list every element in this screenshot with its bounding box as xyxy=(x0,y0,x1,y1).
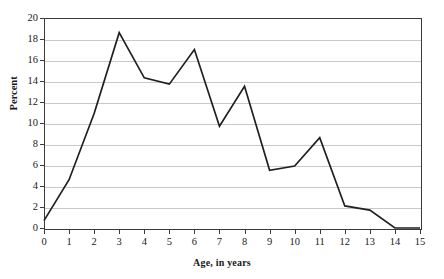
x-tick-mark xyxy=(144,229,145,234)
x-axis-title: Age, in years xyxy=(0,257,444,268)
chart-figure: Percent 02468101214161820 01234567891011… xyxy=(0,0,444,279)
x-tick-mark xyxy=(320,229,321,234)
x-tick-label: 9 xyxy=(257,237,283,248)
y-tick-mark xyxy=(40,123,44,124)
x-tick-mark xyxy=(69,229,70,234)
gridline xyxy=(45,40,421,41)
y-tick-label: 16 xyxy=(20,55,38,66)
x-tick-mark xyxy=(119,229,120,234)
y-tick-label: 20 xyxy=(20,13,38,24)
x-tick-mark xyxy=(395,229,396,234)
y-tick-label: 10 xyxy=(20,118,38,129)
x-tick-label: 1 xyxy=(56,237,82,248)
y-tick-label: 12 xyxy=(20,97,38,108)
x-tick-label: 3 xyxy=(106,237,132,248)
y-tick-label: 6 xyxy=(20,160,38,171)
x-tick-label: 0 xyxy=(31,237,57,248)
x-tick-mark xyxy=(420,229,421,234)
x-tick-mark xyxy=(270,229,271,234)
y-tick-label: 4 xyxy=(20,181,38,192)
gridline xyxy=(45,82,421,83)
x-tick-mark xyxy=(194,229,195,234)
gridline xyxy=(45,61,421,62)
y-axis-title: Percent xyxy=(8,93,19,111)
y-tick-label: 14 xyxy=(20,76,38,87)
x-tick-label: 15 xyxy=(407,237,433,248)
gridline xyxy=(45,166,421,167)
y-tick-mark xyxy=(40,165,44,166)
x-tick-label: 4 xyxy=(131,237,157,248)
x-tick-mark xyxy=(245,229,246,234)
x-tick-mark xyxy=(219,229,220,234)
gridline xyxy=(45,124,421,125)
y-tick-mark xyxy=(40,102,44,103)
y-tick-mark xyxy=(40,60,44,61)
x-tick-mark xyxy=(169,229,170,234)
x-tick-mark xyxy=(345,229,346,234)
y-tick-label: 0 xyxy=(20,223,38,234)
gridline xyxy=(45,187,421,188)
y-tick-mark xyxy=(40,144,44,145)
y-tick-mark xyxy=(40,81,44,82)
y-tick-mark xyxy=(40,18,44,19)
x-tick-label: 14 xyxy=(382,237,408,248)
x-tick-label: 8 xyxy=(232,237,258,248)
y-tick-label: 18 xyxy=(20,34,38,45)
x-tick-label: 7 xyxy=(206,237,232,248)
y-tick-mark xyxy=(40,186,44,187)
x-tick-label: 13 xyxy=(357,237,383,248)
x-tick-label: 5 xyxy=(156,237,182,248)
plot-area xyxy=(44,18,422,230)
y-tick-label: 8 xyxy=(20,139,38,150)
x-tick-label: 12 xyxy=(332,237,358,248)
y-tick-label: 2 xyxy=(20,202,38,213)
y-tick-mark xyxy=(40,207,44,208)
x-tick-mark xyxy=(295,229,296,234)
x-tick-label: 10 xyxy=(282,237,308,248)
y-tick-mark xyxy=(40,39,44,40)
gridline xyxy=(45,103,421,104)
x-tick-label: 6 xyxy=(181,237,207,248)
x-tick-mark xyxy=(44,229,45,234)
x-tick-label: 2 xyxy=(81,237,107,248)
x-tick-mark xyxy=(370,229,371,234)
x-tick-mark xyxy=(94,229,95,234)
gridline xyxy=(45,208,421,209)
x-tick-label: 11 xyxy=(307,237,333,248)
gridline xyxy=(45,145,421,146)
